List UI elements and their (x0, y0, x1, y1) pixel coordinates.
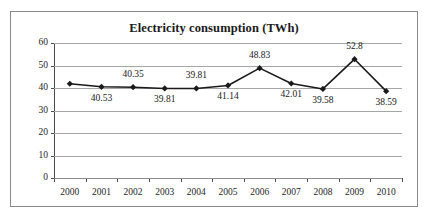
data-label-2009: 52.8 (333, 42, 377, 52)
data-point-marker-2000 (67, 81, 73, 87)
data-point-marker-2003 (162, 85, 168, 91)
data-label-2004: 39.81 (174, 71, 218, 81)
data-label-2010: 38.59 (364, 98, 408, 108)
y-tick-label-60: 60 (18, 38, 48, 48)
data-label-2008: 39.58 (301, 96, 345, 106)
x-tick-mark-11 (402, 178, 403, 182)
y-tick-label-50: 50 (18, 61, 48, 71)
data-point-marker-2007 (288, 80, 294, 86)
gridline-0 (54, 178, 402, 179)
y-tick-label-10: 10 (18, 151, 48, 161)
x-tick-label-2010: 2010 (366, 188, 406, 198)
data-point-marker-2001 (98, 84, 104, 90)
data-point-marker-2006 (257, 65, 263, 71)
y-tick-label-30: 30 (18, 106, 48, 116)
series-line-electricity-consumption (54, 43, 402, 178)
data-point-marker-2004 (193, 85, 199, 91)
data-label-2006: 48.83 (238, 51, 282, 61)
plot-area (54, 43, 402, 178)
data-label-2001: 40.53 (79, 94, 123, 104)
chart-title: Electricity consumption (TWh) (11, 21, 417, 36)
data-label-2002: 40.35 (111, 70, 155, 80)
data-label-2003: 39.81 (143, 95, 187, 105)
y-tick-label-40: 40 (18, 83, 48, 93)
y-tick-label-0: 0 (18, 173, 48, 183)
y-tick-label-20: 20 (18, 128, 48, 138)
chart-frame: Electricity consumption (TWh) 0102030405… (10, 11, 418, 207)
data-label-2005: 41.14 (206, 92, 250, 102)
data-point-marker-2005 (225, 82, 231, 88)
data-point-marker-2002 (130, 84, 136, 90)
